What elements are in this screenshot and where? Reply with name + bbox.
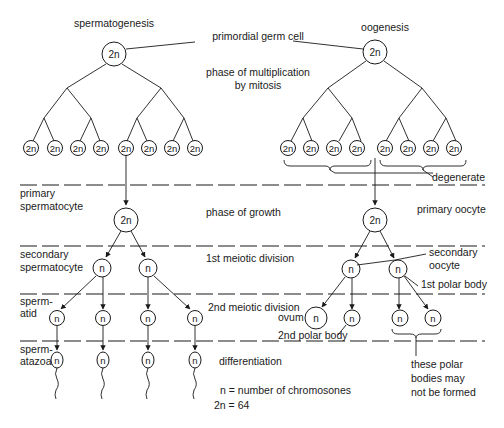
svg-text:n: n: [54, 313, 59, 324]
svg-text:n: n: [100, 355, 105, 366]
label-polar-note-1: these polar: [411, 358, 463, 370]
label-second-polar-body: 2nd polar body: [278, 329, 348, 341]
label-first-polar-body: 1st polar body: [421, 278, 488, 290]
oogenesis-meiosis: 2n n n n n n n: [305, 158, 441, 356]
svg-text:n: n: [99, 263, 105, 274]
label-primordial-germ-cell: primordial germ cell: [212, 30, 304, 42]
label-secondary-spermatocyte-2: spermatocyte: [20, 261, 83, 273]
svg-text:2n: 2n: [380, 143, 391, 154]
svg-text:2n: 2n: [329, 143, 340, 154]
svg-text:n: n: [100, 313, 105, 324]
svg-text:2n: 2n: [352, 143, 363, 154]
label-spermatozoa-1: sperm-: [20, 343, 53, 355]
svg-text:2n: 2n: [403, 143, 414, 154]
svg-text:n: n: [145, 355, 150, 366]
svg-text:2n: 2n: [283, 143, 294, 154]
svg-text:2n: 2n: [167, 143, 178, 154]
label-differentiation: differentiation: [219, 355, 282, 367]
spermatogonia-row: 2n 2n 2n 2n 2n 2n 2n 2n: [24, 141, 203, 156]
label-secondary-oocyte-2: oocyte: [429, 259, 460, 271]
svg-text:n: n: [397, 313, 402, 324]
svg-text:2n: 2n: [369, 215, 380, 226]
label-secondary-spermatocyte-1: secondary: [20, 248, 69, 260]
svg-text:2n: 2n: [449, 143, 460, 154]
svg-text:n: n: [145, 313, 150, 324]
svg-text:2n: 2n: [190, 143, 201, 154]
gametogenesis-diagram: spermatogenesis oogenesis primordial ger…: [0, 0, 504, 428]
spermatogenesis-mitosis-tree: [33, 64, 193, 141]
svg-text:n: n: [349, 313, 354, 324]
spermatogenesis-meiosis: 2n n n n n n n: [50, 155, 203, 350]
label-primary-spermatocyte-1: primary: [20, 187, 56, 199]
connector-line-right: [293, 41, 363, 49]
svg-text:2n: 2n: [306, 143, 317, 154]
label-primary-oocyte: primary oocyte: [417, 203, 486, 215]
svg-text:n: n: [145, 263, 151, 274]
connector-line-left: [126, 42, 195, 49]
oogenesis-mitosis-tree: [291, 61, 456, 141]
label-first-meiotic-division: 1st meiotic division: [206, 252, 294, 264]
label-primary-spermatocyte-2: spermatocyte: [20, 200, 83, 212]
oogonia-row: 2n 2n 2n 2n 2n 2n 2n 2n: [281, 141, 462, 156]
label-polar-note-2: bodies may: [411, 372, 465, 384]
svg-text:2n: 2n: [144, 143, 155, 154]
oogenesis-primordial-cell: 2n: [363, 40, 387, 64]
label-ovum: ovum: [278, 311, 304, 323]
label-degenerate: degenerate: [432, 171, 485, 183]
svg-text:2n: 2n: [108, 49, 119, 60]
label-multiplication-2: by mitosis: [235, 79, 282, 91]
label-phase-of-growth: phase of growth: [206, 206, 281, 218]
svg-text:n: n: [395, 264, 401, 275]
svg-text:n: n: [54, 355, 59, 366]
spermatogenesis-primordial-cell: 2n: [102, 42, 126, 66]
svg-text:n: n: [192, 313, 197, 324]
legend-n: n = number of chromosones: [220, 384, 351, 396]
title-oogenesis: oogenesis: [361, 21, 409, 33]
svg-text:2n: 2n: [96, 143, 107, 154]
svg-text:2n: 2n: [121, 143, 132, 154]
svg-text:n: n: [430, 313, 435, 324]
svg-text:2n: 2n: [120, 215, 131, 226]
svg-text:2n: 2n: [73, 143, 84, 154]
svg-text:2n: 2n: [369, 47, 380, 58]
title-spermatogenesis: spermatogenesis: [74, 17, 154, 29]
svg-text:n: n: [348, 264, 354, 275]
label-spermatozoa-2: atazoa: [20, 355, 52, 367]
label-secondary-oocyte-1: secondary: [429, 246, 478, 258]
svg-text:2n: 2n: [26, 143, 37, 154]
svg-text:2n: 2n: [50, 143, 61, 154]
svg-text:n: n: [192, 355, 197, 366]
svg-text:2n: 2n: [426, 143, 437, 154]
label-spermatid-2: atid: [20, 307, 37, 319]
label-spermatid-1: sperm-: [20, 295, 53, 307]
primordial-germ-cell-label-group: primordial germ cell: [126, 30, 363, 49]
legend-2n: 2n = 64: [214, 399, 249, 411]
label-polar-note-3: not be formed: [411, 386, 476, 398]
svg-text:n: n: [313, 313, 319, 324]
label-multiplication-1: phase of multiplication: [206, 66, 310, 78]
spermatozoa: n n n n: [51, 352, 201, 399]
